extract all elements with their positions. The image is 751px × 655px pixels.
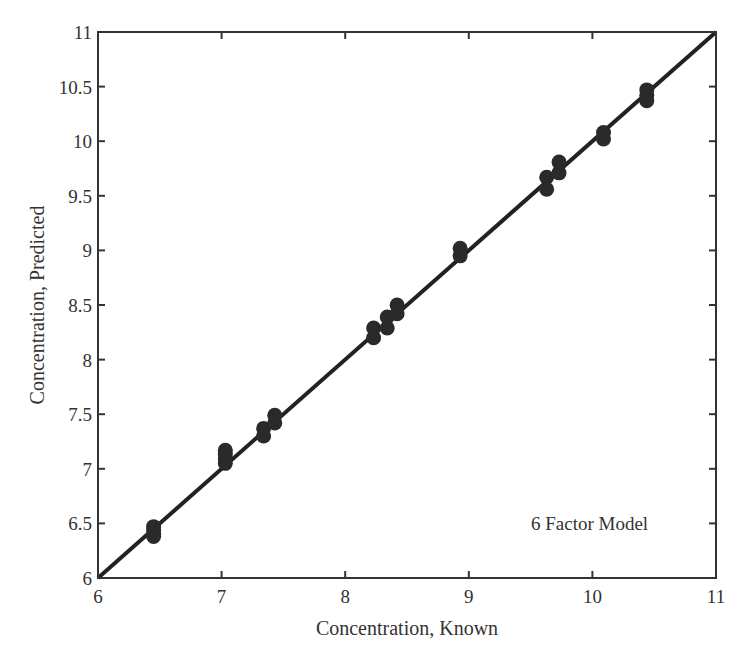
y-tick-label: 10.5 <box>59 77 92 98</box>
model-annotation: 6 Factor Model <box>531 513 648 534</box>
data-point <box>267 415 282 430</box>
y-tick-label: 8.5 <box>68 295 92 316</box>
data-point <box>390 306 405 321</box>
data-point <box>146 529 161 544</box>
x-axis-label: Concentration, Known <box>316 617 498 639</box>
y-axis-ticks: 66.577.588.599.51010.511 <box>59 22 716 589</box>
x-tick-label: 6 <box>93 586 103 607</box>
y-tick-label: 6 <box>83 568 93 589</box>
data-point <box>539 182 554 197</box>
y-tick-label: 7.5 <box>68 404 92 425</box>
y-axis-label: Concentration, Predicted <box>26 206 48 405</box>
data-point <box>366 330 381 345</box>
data-point <box>256 429 271 444</box>
y-tick-label: 7 <box>83 459 93 480</box>
data-point <box>380 320 395 335</box>
x-tick-label: 10 <box>583 586 602 607</box>
y-tick-label: 9 <box>83 240 93 261</box>
scatter-chart: 67891011 66.577.588.599.51010.511 Concen… <box>0 0 751 655</box>
y-tick-label: 8 <box>83 350 93 371</box>
y-tick-label: 6.5 <box>68 513 92 534</box>
x-tick-label: 11 <box>707 586 725 607</box>
data-point <box>218 456 233 471</box>
identity-reference-line <box>98 32 716 578</box>
y-tick-label: 9.5 <box>68 186 92 207</box>
x-tick-label: 7 <box>217 586 227 607</box>
y-tick-label: 11 <box>74 22 92 43</box>
data-point <box>596 132 611 147</box>
x-tick-label: 9 <box>464 586 474 607</box>
x-tick-label: 8 <box>340 586 350 607</box>
data-point <box>552 165 567 180</box>
data-point <box>639 93 654 108</box>
y-tick-label: 10 <box>73 131 92 152</box>
data-point <box>453 248 468 263</box>
